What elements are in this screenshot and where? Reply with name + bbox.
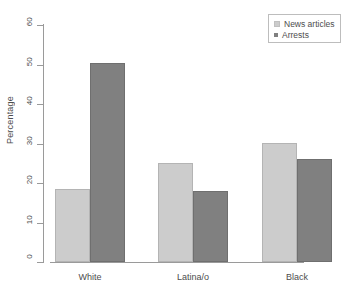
x-axis-label-latina-o: Latina/o <box>153 272 233 282</box>
bar-latina-o-arrests <box>193 191 228 262</box>
bar-chart: Percentage 0102030405060 WhiteLatina/oBl… <box>0 0 348 300</box>
bar-black-news-articles <box>262 143 297 262</box>
legend-item-news-articles: News articles <box>274 19 335 29</box>
bar-white-news-articles <box>55 189 90 262</box>
legend-swatch-news-articles-icon <box>274 21 280 27</box>
bar-black-arrests <box>297 159 332 262</box>
chart-legend: News articles Arrests <box>268 14 341 43</box>
bar-latina-o-news-articles <box>158 163 193 262</box>
y-axis-tick <box>37 262 43 263</box>
legend-label-news-articles: News articles <box>284 19 335 29</box>
bar-white-arrests <box>90 63 125 262</box>
legend-item-arrests: Arrests <box>274 30 309 40</box>
legend-swatch-arrests-icon <box>274 33 278 37</box>
x-axis-line <box>50 262 304 263</box>
legend-label-arrests: Arrests <box>282 30 309 40</box>
x-axis-label-black: Black <box>257 272 337 282</box>
x-axis-label-white: White <box>50 272 130 282</box>
